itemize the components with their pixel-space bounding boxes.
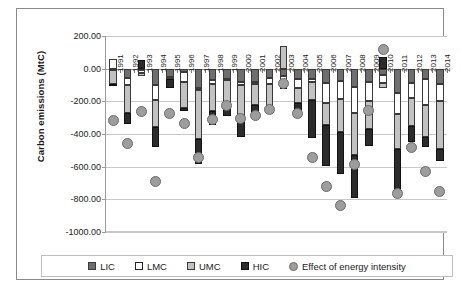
y-tick-label: 200.00 — [73, 31, 101, 41]
bar-segment-umc[interactable] — [195, 90, 203, 139]
bar-segment-lic[interactable] — [195, 69, 203, 89]
bar-segment-hic[interactable] — [124, 113, 132, 123]
legend-item[interactable]: UMC — [187, 261, 221, 272]
energy-intensity-marker[interactable] — [335, 200, 346, 211]
y-tick-mark — [102, 167, 106, 168]
bar-segment-lmc[interactable] — [322, 83, 330, 102]
bar-column[interactable] — [124, 36, 132, 232]
bar-segment-umc[interactable] — [109, 70, 117, 83]
legend-label: UMC — [199, 261, 221, 272]
energy-intensity-marker[interactable] — [292, 108, 303, 119]
bar-segment-hic[interactable] — [180, 108, 188, 111]
bar-segment-lic[interactable] — [394, 69, 402, 94]
legend-item[interactable]: Effect of energy intensity — [289, 261, 406, 272]
energy-intensity-marker[interactable] — [264, 104, 275, 115]
energy-intensity-marker[interactable] — [363, 105, 374, 116]
bar-segment-lmc[interactable] — [422, 79, 430, 105]
bar-segment-lmc[interactable] — [408, 83, 416, 97]
energy-intensity-marker[interactable] — [307, 152, 318, 163]
bar-segment-umc[interactable] — [351, 113, 359, 155]
bar-column[interactable] — [195, 36, 203, 232]
bar-segment-umc[interactable] — [251, 84, 259, 105]
bar-segment-lmc[interactable] — [294, 79, 302, 88]
y-tick-label: 0.00 — [83, 64, 101, 74]
bar-segment-umc[interactable] — [322, 103, 330, 125]
bar-segment-umc[interactable] — [124, 85, 132, 113]
energy-intensity-marker[interactable] — [420, 166, 431, 177]
bar-segment-hic[interactable] — [337, 132, 345, 174]
bar-segment-umc[interactable] — [180, 82, 188, 108]
bar-segment-lmc[interactable] — [152, 85, 160, 100]
energy-intensity-marker[interactable] — [150, 176, 161, 187]
legend-item[interactable]: LIC — [88, 261, 115, 272]
legend-label: LIC — [100, 261, 115, 272]
bar-segment-hic[interactable] — [322, 125, 330, 166]
energy-intensity-marker[interactable] — [221, 100, 232, 111]
bar-segment-lic[interactable] — [124, 69, 132, 78]
bar-segment-umc[interactable] — [394, 114, 402, 149]
bar-segment-hic[interactable] — [109, 84, 117, 86]
bar-segment-hic[interactable] — [436, 149, 444, 162]
bar-segment-hic[interactable] — [422, 137, 430, 147]
bar-segment-lmc[interactable] — [379, 75, 387, 83]
y-tick-label: -600.00 — [70, 162, 101, 172]
y-tick-mark — [102, 69, 106, 70]
bar-segment-umc[interactable] — [408, 98, 416, 126]
y-tick-label: -1000.00 — [65, 227, 101, 237]
legend-swatch-lic — [88, 262, 96, 270]
bar-segment-hic[interactable] — [166, 79, 174, 88]
bar-segment-umc[interactable] — [436, 101, 444, 149]
bar-segment-lmc[interactable] — [436, 84, 444, 101]
energy-intensity-marker[interactable] — [164, 108, 175, 119]
bar-segment-lmc[interactable] — [124, 78, 132, 85]
energy-intensity-marker[interactable] — [108, 115, 119, 126]
legend-item[interactable]: HIC — [241, 261, 269, 272]
y-axis-tick-labels: 200.000.00-200.00-400.00-600.00-800.00-1… — [39, 29, 101, 239]
bar-segment-umc[interactable] — [308, 82, 316, 100]
bar-segment-hic[interactable] — [408, 126, 416, 142]
energy-intensity-marker[interactable] — [235, 113, 246, 124]
chart-container: Carbon emissions (MtC) 200.000.00-200.00… — [16, 8, 444, 280]
y-tick-mark — [102, 232, 106, 233]
bar-segment-umc[interactable] — [209, 84, 217, 111]
bar-segment-hic[interactable] — [308, 100, 316, 138]
bar-segment-umc[interactable] — [138, 73, 146, 76]
y-tick-label: -200.00 — [70, 96, 101, 106]
y-tick-mark — [102, 134, 106, 135]
bar-segment-umc[interactable] — [152, 100, 160, 127]
bar-segment-lmc[interactable] — [351, 87, 359, 113]
legend-label: HIC — [253, 261, 269, 272]
energy-intensity-marker[interactable] — [278, 78, 289, 89]
bar-segment-lmc[interactable] — [337, 81, 345, 99]
energy-intensity-marker[interactable] — [193, 152, 204, 163]
bar-segment-umc[interactable] — [422, 105, 430, 137]
chart-screenshot: Carbon emissions (MtC) 200.000.00-200.00… — [0, 0, 460, 287]
energy-intensity-marker[interactable] — [406, 142, 417, 153]
bar-segment-hic[interactable] — [365, 129, 373, 146]
bar-segment-lmc[interactable] — [394, 93, 402, 114]
energy-intensity-marker[interactable] — [250, 110, 261, 121]
energy-intensity-marker[interactable] — [122, 138, 133, 149]
x-axis-year-label: 2014 — [443, 54, 452, 72]
energy-intensity-marker[interactable] — [392, 188, 403, 199]
y-tick-mark — [102, 199, 106, 200]
y-tick-label: -400.00 — [70, 129, 101, 139]
energy-intensity-marker[interactable] — [136, 106, 147, 117]
chart-legend: LICLMCUMCHICEffect of energy intensity — [41, 255, 453, 277]
energy-intensity-marker[interactable] — [207, 114, 218, 125]
energy-intensity-marker[interactable] — [321, 181, 332, 192]
bar-segment-umc[interactable] — [294, 88, 302, 103]
gridline — [106, 232, 447, 233]
energy-intensity-marker[interactable] — [179, 118, 190, 129]
energy-intensity-marker[interactable] — [434, 186, 445, 197]
bar-segment-lmc[interactable] — [365, 82, 373, 100]
bar-segment-umc[interactable] — [266, 84, 274, 105]
energy-intensity-marker[interactable] — [378, 44, 389, 55]
bar-segment-umc[interactable] — [337, 99, 345, 132]
bar-segment-lmc[interactable] — [180, 72, 188, 82]
bar-segment-hic[interactable] — [152, 127, 160, 147]
legend-label: Effect of energy intensity — [302, 261, 406, 272]
energy-intensity-marker[interactable] — [349, 159, 360, 170]
bar-segment-umc[interactable] — [379, 83, 387, 88]
legend-item[interactable]: LMC — [135, 261, 167, 272]
